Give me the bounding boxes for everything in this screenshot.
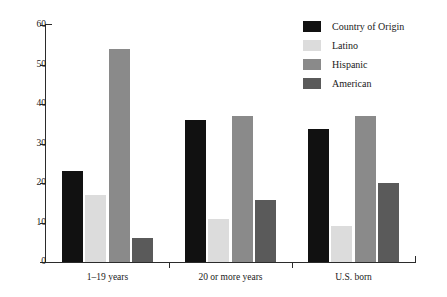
bar bbox=[132, 238, 153, 262]
y-tick-0: 0 bbox=[0, 262, 46, 263]
y-tick-label: 50 bbox=[24, 60, 46, 70]
legend-label: Latino bbox=[332, 40, 358, 51]
y-tick-40: 40 bbox=[0, 104, 46, 105]
legend-item: Hispanic bbox=[303, 55, 404, 74]
legend-item: Country of Origin bbox=[303, 17, 404, 36]
y-tick-10: 10 bbox=[0, 223, 46, 224]
legend: Country of OriginLatinoHispanicAmerican bbox=[303, 17, 404, 93]
bar bbox=[378, 183, 399, 262]
bar-chart: 6050403020100 1–19 years20 or more years… bbox=[0, 0, 447, 297]
x-tick-mark bbox=[292, 262, 293, 268]
x-axis-line bbox=[45, 262, 416, 263]
y-tick-label: 30 bbox=[24, 139, 46, 149]
x-category-label: 20 or more years bbox=[169, 272, 292, 283]
y-tick-label: 40 bbox=[24, 99, 46, 109]
bar bbox=[62, 171, 83, 262]
bar bbox=[355, 116, 376, 262]
bar bbox=[331, 226, 352, 262]
x-axis-right-cap bbox=[415, 256, 416, 263]
x-category-label: U.S. born bbox=[292, 272, 415, 283]
bar bbox=[185, 120, 206, 262]
y-tick-label: 0 bbox=[24, 257, 46, 267]
bar bbox=[255, 200, 276, 262]
legend-item: Latino bbox=[303, 36, 404, 55]
y-tick-30: 30 bbox=[0, 144, 46, 145]
x-tick-mark bbox=[169, 262, 170, 268]
y-tick-label: 20 bbox=[24, 178, 46, 188]
bar-group bbox=[185, 25, 277, 262]
legend-swatch-icon bbox=[303, 40, 321, 51]
legend-swatch-icon bbox=[303, 21, 321, 32]
y-tick-60: 60 bbox=[0, 25, 46, 26]
legend-swatch-icon bbox=[303, 78, 321, 89]
legend-label: American bbox=[332, 78, 371, 89]
legend-label: Hispanic bbox=[332, 59, 368, 70]
bar bbox=[208, 219, 229, 262]
bar bbox=[232, 116, 253, 262]
legend-label: Country of Origin bbox=[332, 21, 404, 32]
bar bbox=[109, 49, 130, 262]
y-tick-label: 10 bbox=[24, 218, 46, 228]
bar-group bbox=[62, 25, 154, 262]
legend-swatch-icon bbox=[303, 59, 321, 70]
bar bbox=[308, 129, 329, 263]
y-tick-label: 60 bbox=[24, 20, 46, 30]
legend-item: American bbox=[303, 74, 404, 93]
x-category-label: 1–19 years bbox=[46, 272, 169, 283]
y-tick-20: 20 bbox=[0, 183, 46, 184]
y-tick-50: 50 bbox=[0, 65, 46, 66]
bar bbox=[85, 195, 106, 262]
